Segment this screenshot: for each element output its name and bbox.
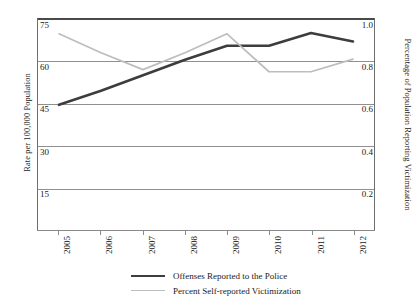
x-tick-mark: [58, 231, 59, 235]
y-tick-left: 30: [40, 147, 49, 157]
x-tick-mark: [269, 231, 270, 235]
y-tick-right: 1.0: [340, 20, 373, 30]
y-tick-left: 45: [40, 104, 49, 114]
x-tick-mark: [312, 231, 313, 235]
y-tick-left: 15: [40, 189, 49, 199]
x-tick-label: 2007: [147, 236, 157, 254]
x-tick-label: 2005: [62, 236, 72, 254]
legend-line-swatch: [131, 275, 165, 277]
legend-item: Percent Self-reported Victimization: [0, 283, 419, 298]
x-tick-mark: [143, 231, 144, 235]
series-lines: [38, 19, 374, 230]
x-tick-mark: [227, 231, 228, 235]
y-tick-right: 0.4: [340, 147, 373, 157]
y-tick-right: 0.8: [340, 62, 373, 72]
legend-label: Offenses Reported to the Police: [173, 271, 287, 281]
plot-area: [37, 18, 375, 230]
x-tick-label: 2006: [104, 236, 114, 254]
x-tick-label: 2010: [273, 236, 283, 254]
x-tick-mark: [185, 231, 186, 235]
y-tick-right: 0.2: [340, 189, 373, 199]
x-tick-mark: [354, 231, 355, 235]
x-tick-label: 2008: [189, 236, 199, 254]
x-tick-label: 2011: [316, 236, 326, 254]
chart-legend: Offenses Reported to the PolicePercent S…: [0, 268, 419, 298]
chart-figure: Rate per 100,000 Population Percentage o…: [0, 0, 419, 307]
right-axis-title: Percentage of Population Reporting Victi…: [403, 17, 412, 232]
y-tick-right: 0.6: [340, 104, 373, 114]
x-tick-mark: [100, 231, 101, 235]
legend-label: Percent Self-reported Victimization: [173, 286, 301, 296]
x-axis-line: [37, 230, 375, 231]
legend-item: Offenses Reported to the Police: [0, 268, 419, 283]
x-tick-label: 2012: [358, 236, 368, 254]
legend-line-swatch: [131, 290, 165, 291]
y-tick-left: 75: [40, 20, 49, 30]
y-tick-left: 60: [40, 62, 49, 72]
x-tick-label: 2009: [231, 236, 241, 254]
left-axis-title: Rate per 100,000 Population: [23, 38, 32, 208]
